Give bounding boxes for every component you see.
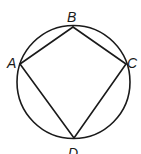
vertex-label-b: B bbox=[67, 9, 76, 25]
vertex-label-d: D bbox=[68, 145, 78, 154]
edge-da bbox=[20, 64, 74, 138]
vertex-label-c: C bbox=[127, 55, 138, 71]
vertex-label-a: A bbox=[6, 55, 16, 71]
edge-cd bbox=[74, 64, 126, 138]
inscribed-quadrilateral-diagram: B A C D bbox=[0, 0, 141, 154]
